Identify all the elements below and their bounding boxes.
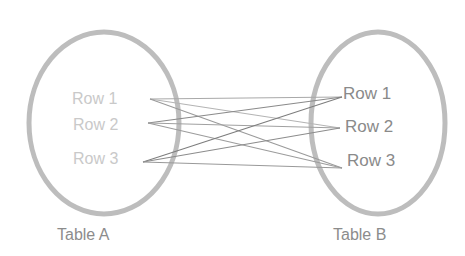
table-a-row-3: Row 3 — [73, 151, 118, 167]
table-b-label: Table B — [333, 227, 386, 243]
table-b-row-3: Row 3 — [347, 152, 395, 169]
table-a-label: Table A — [57, 227, 109, 243]
table-b-row-2: Row 2 — [345, 118, 393, 135]
table-a-row-2: Row 2 — [73, 117, 118, 133]
diagram-canvas — [0, 0, 465, 256]
table-a-row-1: Row 1 — [72, 91, 117, 107]
table-b-row-1: Row 1 — [343, 85, 391, 102]
